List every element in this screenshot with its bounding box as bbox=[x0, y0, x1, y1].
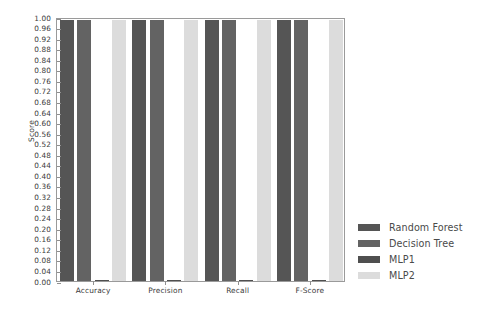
chart-legend: Random ForestDecision TreeMLP1MLP2 bbox=[358, 219, 496, 283]
y-tick-mark bbox=[57, 29, 61, 30]
y-tick-mark bbox=[57, 50, 61, 51]
x-tick-mark bbox=[165, 281, 166, 285]
y-tick-label: 0.24 bbox=[34, 214, 51, 223]
y-tick-mark bbox=[57, 40, 61, 41]
bar-decision-tree-precision bbox=[150, 20, 164, 281]
y-tick-label: 0.40 bbox=[34, 172, 51, 181]
y-tick-label: 0.52 bbox=[34, 140, 51, 149]
y-tick-mark bbox=[57, 283, 61, 284]
y-tick-label: 0.48 bbox=[34, 151, 51, 160]
legend-label: Decision Tree bbox=[389, 238, 454, 249]
bar-mlp1-recall bbox=[239, 280, 253, 281]
y-tick-mark bbox=[57, 124, 61, 125]
x-tick-mark bbox=[93, 281, 94, 285]
x-tick-mark bbox=[310, 281, 311, 285]
y-tick-label: 0.36 bbox=[34, 182, 51, 191]
y-tick-label: 0.12 bbox=[34, 246, 51, 255]
y-tick-label: 0.16 bbox=[34, 235, 51, 244]
legend-label: Random Forest bbox=[389, 222, 463, 233]
bar-mlp1-f-score bbox=[312, 280, 326, 281]
y-tick-label: 0.20 bbox=[34, 225, 51, 234]
y-tick-label: 0.00 bbox=[34, 278, 51, 287]
y-tick-mark bbox=[57, 219, 61, 220]
bar-random-forest-recall bbox=[205, 20, 219, 281]
x-tick-label: Recall bbox=[198, 286, 278, 295]
y-tick-mark bbox=[57, 82, 61, 83]
y-tick-label: 0.68 bbox=[34, 98, 51, 107]
legend-swatch-icon bbox=[358, 240, 380, 247]
bar-mlp2-f-score bbox=[329, 20, 343, 281]
y-tick-label: 0.72 bbox=[34, 87, 51, 96]
y-tick-mark bbox=[57, 198, 61, 199]
y-tick-mark bbox=[57, 114, 61, 115]
bar-decision-tree-f-score bbox=[294, 20, 308, 281]
y-tick-label: 0.88 bbox=[34, 45, 51, 54]
bar-mlp2-precision bbox=[184, 20, 198, 281]
y-tick-label: 0.56 bbox=[34, 130, 51, 139]
x-tick-mark bbox=[238, 281, 239, 285]
y-tick-mark bbox=[57, 230, 61, 231]
y-tick-label: 1.00 bbox=[34, 14, 51, 23]
y-tick-mark bbox=[57, 272, 61, 273]
y-tick-mark bbox=[57, 251, 61, 252]
bar-mlp2-recall bbox=[257, 20, 271, 281]
y-tick-label: 0.28 bbox=[34, 204, 51, 213]
legend-swatch-icon bbox=[358, 256, 380, 263]
y-tick-label: 0.80 bbox=[34, 66, 51, 75]
legend-item[interactable]: MLP1 bbox=[358, 251, 496, 267]
y-tick-mark bbox=[57, 61, 61, 62]
legend-item[interactable]: Decision Tree bbox=[358, 235, 496, 251]
x-tick-label: Precision bbox=[125, 286, 205, 295]
legend-item[interactable]: Random Forest bbox=[358, 219, 496, 235]
y-tick-mark bbox=[57, 177, 61, 178]
plot-axes: 1.000.960.920.880.840.800.760.720.680.64… bbox=[56, 18, 345, 282]
y-tick-mark bbox=[57, 166, 61, 167]
bar-random-forest-precision bbox=[132, 20, 146, 281]
y-tick-label: 0.44 bbox=[34, 161, 51, 170]
x-tick-label: F-Score bbox=[270, 286, 350, 295]
bar-mlp2-accuracy bbox=[112, 20, 126, 281]
y-tick-label: 0.32 bbox=[34, 193, 51, 202]
y-tick-label: 0.76 bbox=[34, 77, 51, 86]
y-tick-label: 0.92 bbox=[34, 35, 51, 44]
legend-swatch-icon bbox=[358, 272, 380, 279]
y-tick-mark bbox=[57, 156, 61, 157]
bar-random-forest-accuracy bbox=[60, 20, 74, 281]
y-tick-label: 0.64 bbox=[34, 109, 51, 118]
legend-label: MLP2 bbox=[389, 270, 415, 281]
y-tick-mark bbox=[57, 71, 61, 72]
y-tick-mark bbox=[57, 103, 61, 104]
y-tick-label: 0.08 bbox=[34, 256, 51, 265]
x-tick-label: Accuracy bbox=[53, 286, 133, 295]
bar-random-forest-f-score bbox=[277, 20, 291, 281]
y-tick-mark bbox=[57, 240, 61, 241]
y-tick-mark bbox=[57, 19, 61, 20]
y-tick-label: 0.60 bbox=[34, 119, 51, 128]
bar-mlp1-precision bbox=[167, 280, 181, 281]
y-tick-label: 0.04 bbox=[34, 267, 51, 276]
bar-mlp1-accuracy bbox=[95, 280, 109, 281]
y-tick-label: 0.84 bbox=[34, 56, 51, 65]
y-tick-mark bbox=[57, 261, 61, 262]
legend-label: MLP1 bbox=[389, 254, 415, 265]
y-tick-mark bbox=[57, 145, 61, 146]
bar-decision-tree-recall bbox=[222, 20, 236, 281]
y-tick-mark bbox=[57, 209, 61, 210]
bar-decision-tree-accuracy bbox=[77, 20, 91, 281]
plot-area bbox=[57, 19, 344, 281]
y-tick-mark bbox=[57, 187, 61, 188]
legend-item[interactable]: MLP2 bbox=[358, 267, 496, 283]
y-tick-label: 0.96 bbox=[34, 24, 51, 33]
y-tick-mark bbox=[57, 92, 61, 93]
chart-figure: Score 1.000.960.920.880.840.800.760.720.… bbox=[0, 0, 500, 311]
legend-swatch-icon bbox=[358, 224, 380, 231]
y-tick-mark bbox=[57, 135, 61, 136]
